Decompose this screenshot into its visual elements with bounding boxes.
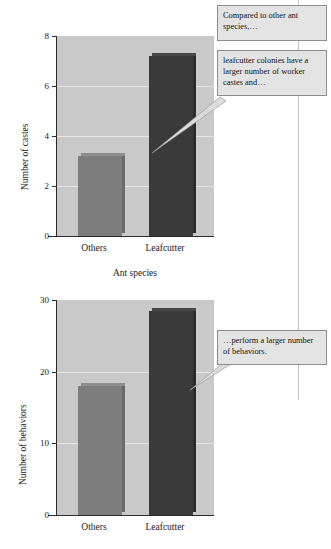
y-tick [52, 300, 56, 301]
x-axis-line [48, 515, 214, 516]
bar-others [78, 156, 122, 236]
x-category-label-leafcutter: Leafcutter [129, 522, 201, 532]
callout-perform-behaviors: …perform a larger number of behaviors. [217, 330, 327, 365]
x-category-label-others: Others [58, 522, 130, 532]
y-tick [52, 372, 56, 373]
bar-top [81, 153, 125, 156]
bar-top [152, 308, 196, 311]
bar-face [78, 156, 122, 236]
x-category-label-leafcutter: Leafcutter [129, 243, 201, 253]
bar-side [193, 308, 196, 512]
bar-face [149, 311, 193, 515]
y-axis-title: Number of castes [20, 124, 30, 190]
x-axis-title: Ant species [56, 268, 214, 278]
callout-leafcutter-castes: leafcutter colonies have a larger number… [217, 50, 327, 96]
figure-canvas: 8 6 4 2 0 Number of castes Others Leafcu… [0, 0, 331, 549]
y-tick [52, 136, 56, 137]
bar-side [122, 383, 125, 512]
bar-leafcutter [149, 311, 193, 515]
callout-compared-to-other-ants: Compared to other ant species,… [217, 5, 327, 41]
y-tick [52, 186, 56, 187]
y-tick [52, 86, 56, 87]
y-tick-label: 10 [26, 439, 49, 448]
bar-others [78, 386, 122, 515]
bar-top [152, 53, 196, 56]
y-tick [52, 443, 56, 444]
bar-face [78, 386, 122, 515]
behaviors-chart: 30 20 10 0 Number of behaviors Others Le… [0, 295, 231, 549]
y-tick-label: 20 [26, 367, 49, 376]
y-tick-label: 30 [26, 296, 49, 305]
bar-top [81, 383, 125, 386]
y-tick-label: 4 [30, 132, 49, 141]
y-tick-label: 6 [30, 82, 49, 91]
y-tick-label: 0 [26, 511, 49, 520]
y-tick-label: 0 [30, 232, 49, 241]
x-category-label-others: Others [58, 243, 130, 253]
y-axis-line [56, 36, 57, 237]
x-axis-line [48, 236, 214, 237]
y-axis-title: Number of behaviors [18, 404, 28, 485]
bar-side [122, 153, 125, 233]
callout-leader-line-2 [150, 95, 230, 155]
y-tick-label: 8 [30, 32, 49, 41]
y-tick [52, 236, 56, 237]
y-tick [52, 36, 56, 37]
y-tick-label: 2 [30, 182, 49, 191]
y-tick [52, 515, 56, 516]
y-axis-line [56, 300, 57, 516]
